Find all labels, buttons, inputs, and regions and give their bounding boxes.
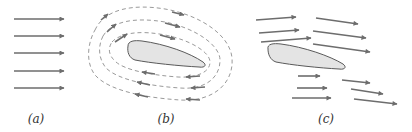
panel-c-label: (c): [318, 112, 334, 126]
flow-arrow: [342, 80, 370, 83]
flow-arrow: [316, 18, 358, 24]
circulation-arrow: [101, 14, 108, 20]
panel-b: (b): [89, 7, 233, 126]
uniform-flow-arrows: [14, 19, 64, 88]
circulation-arrow: [186, 76, 200, 77]
circulation-arrow: [172, 12, 184, 15]
flow-arrow: [313, 44, 370, 52]
circulation-arrow: [107, 24, 116, 32]
lower-flow-arrows: [292, 76, 397, 104]
circulation-arrow: [115, 34, 127, 42]
panel-a-label: (a): [28, 112, 45, 126]
panel-b-label: (b): [157, 112, 174, 126]
circulation-arrow: [186, 99, 200, 100]
flow-arrow: [259, 30, 299, 33]
airfoil-flow-figure: (a) (b): [0, 0, 412, 132]
flow-arrow: [351, 89, 383, 94]
flow-arrow: [354, 99, 397, 104]
circulation-arrow: [135, 94, 148, 97]
flow-arrow: [313, 31, 366, 38]
flow-arrow: [261, 38, 311, 42]
flow-arrow: [256, 17, 296, 20]
circulation-arrow: [142, 72, 155, 74]
circulation-arrow: [137, 82, 150, 85]
circulation-arrow: [191, 87, 205, 88]
panel-a: (a): [14, 19, 64, 126]
panel-c: (c): [256, 17, 397, 126]
